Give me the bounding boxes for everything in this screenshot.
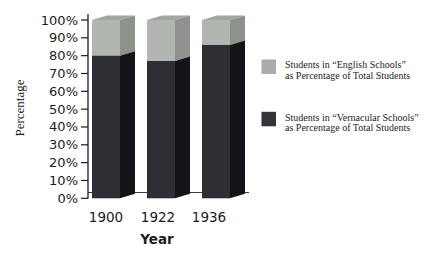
plot-area: 1900192219360%10%20%30%40%50%60%70%80%90… <box>41 13 249 226</box>
y-tick-label-40: 40% <box>49 119 78 134</box>
chart-canvas: 1900192219360%10%20%30%40%50%60%70%80%90… <box>0 0 446 258</box>
bar-1936-vernacular-side-face <box>230 40 245 198</box>
legend-swatch-vernacular <box>262 112 277 127</box>
x-axis-title: Year <box>139 231 174 247</box>
y-tick-label-0: 0% <box>57 191 78 206</box>
y-tick-label-70: 70% <box>49 66 78 81</box>
bar-1900-english-segment <box>92 20 120 56</box>
bar-1936-english-segment <box>202 20 230 45</box>
legend-label-vernacular-line2: as Percentage of Total Students <box>285 122 410 133</box>
y-tick-label-60: 60% <box>49 84 78 99</box>
y-tick-label-80: 80% <box>49 48 78 63</box>
bar-1900-english-side-face <box>120 16 135 56</box>
y-tick-label-100: 100% <box>41 13 78 28</box>
bar-1900-vernacular-side-face <box>120 51 135 198</box>
bar-1922-vernacular-segment <box>147 61 175 198</box>
bar-1900-vernacular-segment <box>92 56 120 199</box>
legend-label-english-line1: Students in “English Schools” <box>285 59 406 70</box>
x-tick-label-1936: 1936 <box>192 209 226 225</box>
y-tick-label-30: 30% <box>49 137 78 152</box>
y-tick-label-50: 50% <box>49 102 78 117</box>
bar-1922-english-side-face <box>175 16 190 62</box>
x-tick-label-1922: 1922 <box>141 209 175 225</box>
bar-1922-english-segment <box>147 20 175 61</box>
chart-figure: 1900192219360%10%20%30%40%50%60%70%80%90… <box>0 0 446 258</box>
bar-1922-vernacular-side-face <box>175 57 190 199</box>
x-tick-label-1900: 1900 <box>89 209 123 225</box>
legend: Students in “English Schools” as Percent… <box>262 59 419 133</box>
y-tick-label-90: 90% <box>49 30 78 45</box>
y-axis-title: Percentage <box>12 79 27 136</box>
bar-1936-vernacular-segment <box>202 45 230 198</box>
legend-label-vernacular-line1: Students in “Vernacular Schools” <box>285 112 419 123</box>
legend-label-english-line2: as Percentage of Total Students <box>285 70 410 81</box>
legend-swatch-english <box>262 60 277 75</box>
bar-1936-english-side-face <box>230 16 245 45</box>
y-tick-label-20: 20% <box>49 155 78 170</box>
y-tick-label-10: 10% <box>49 173 78 188</box>
